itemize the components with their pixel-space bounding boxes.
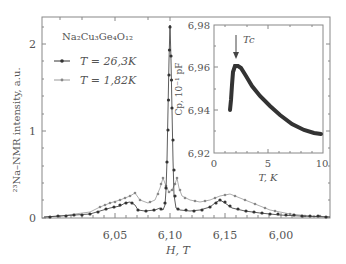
x-tick-6-00: 6,00 — [269, 229, 294, 242]
compound-label: Na₂Cu₃Ge₄O₁₂ — [62, 31, 133, 42]
inset-y-tick-6-92: 6,92 — [188, 148, 210, 159]
legend-label-26-3K: T = 26,3K — [80, 55, 137, 68]
series-1-82K-markers — [99, 177, 322, 218]
inset-x-tick-5: 5 — [265, 158, 271, 169]
x-tick-6-15: 6,15 — [213, 229, 238, 242]
legend-marker-1-82K — [61, 79, 64, 82]
x-axis-label: H, T — [165, 244, 192, 257]
main-right-ticks — [326, 44, 330, 200]
y-tick-0: 0 — [29, 212, 36, 225]
main-y-ticks — [42, 27, 46, 218]
x-tick-6-10: 6,10 — [158, 229, 183, 242]
y-tick-1: 1 — [29, 125, 36, 138]
inset-y-tick-6-94: 6,94 — [188, 105, 210, 116]
inset-y-tick-6-96: 6,96 — [188, 62, 210, 73]
inset-y-tick-6-98: 6,98 — [188, 20, 210, 31]
inset-y-axis-label: Cp, 10⁻¹ pF — [174, 62, 184, 115]
y-axis-label: ²³Na–NMR intensity, a.u. — [11, 67, 22, 192]
nmr-chart: 0 1 2 6,05 6,10 6,15 6,00 H, T ²³Na–NMR … — [0, 0, 346, 264]
y-tick-2: 2 — [29, 38, 36, 51]
legend-label-1-82K: T = 1,82K — [80, 74, 137, 87]
inset-x-axis-label: T, K — [258, 172, 278, 183]
inset-x-tick-0: 0 — [211, 158, 217, 169]
legend-marker-26-3K — [60, 59, 64, 63]
inset-x-tick-10: 10 — [316, 158, 329, 169]
tc-label: Tc — [243, 34, 255, 45]
x-tick-6-05: 6,05 — [103, 229, 128, 242]
